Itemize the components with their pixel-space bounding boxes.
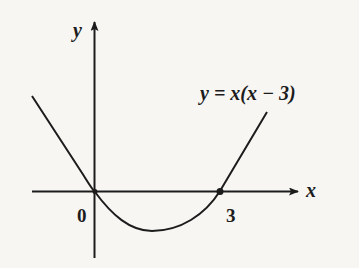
root-tick-label: 3: [226, 205, 236, 226]
plot-canvas: y x 0 3 y = x(x − 3): [0, 0, 359, 268]
root-point-3: [217, 188, 224, 195]
origin-point: [93, 189, 98, 194]
equation-label: y = x(x − 3): [198, 82, 296, 105]
origin-tick-label: 0: [77, 205, 87, 226]
y-axis-label: y: [71, 19, 82, 42]
x-axis-label: x: [305, 179, 316, 201]
graph-figure: y x 0 3 y = x(x − 3): [0, 0, 359, 268]
